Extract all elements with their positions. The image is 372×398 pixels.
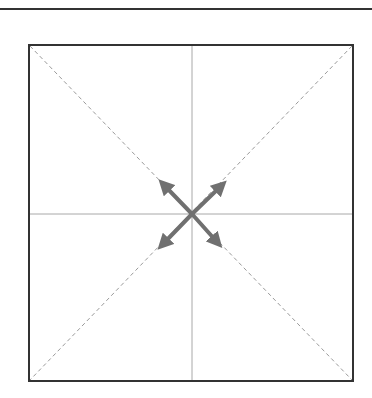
arrow-north-east: [192, 186, 221, 214]
arrow-south-west: [163, 214, 192, 244]
arrow-south-east: [192, 214, 217, 242]
diagram-canvas: [0, 0, 372, 398]
arrow-north-west: [164, 185, 192, 214]
